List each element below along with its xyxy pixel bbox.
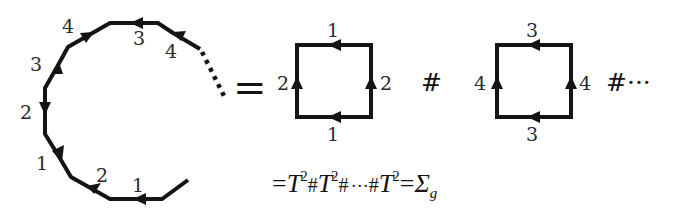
square-torus-1: 1 1 2 2: [277, 19, 392, 145]
square-right-label: 2: [380, 72, 392, 94]
polygon-edge-label: 3: [133, 27, 145, 49]
equals-sign: =: [233, 64, 267, 110]
trailing-connect-sum-ellipsis: #···: [606, 68, 651, 97]
formula-dots: ···: [351, 176, 369, 196]
genus-subscript: g: [430, 185, 438, 201]
arrow-icon: [291, 76, 303, 89]
square-top-label: 3: [526, 19, 538, 41]
surface-sigma-symbol: Σ: [414, 169, 429, 198]
connect-sum-symbol: #: [421, 68, 442, 97]
square-boundary: [497, 45, 571, 117]
arrow-icon: [39, 102, 51, 115]
square-bottom-label: 3: [526, 123, 538, 145]
polygon-edge-label: 2: [96, 164, 108, 186]
polygon-continuation-dots: [202, 52, 224, 96]
polygon-edge-label: 1: [132, 174, 144, 196]
polygon-edge-label: 1: [36, 152, 48, 174]
formula-equals: =: [400, 169, 415, 198]
arrow-icon: [527, 111, 540, 123]
connect-sum-symbol: #: [369, 174, 379, 196]
torus-symbol: T: [318, 169, 332, 198]
connect-sum-symbol: #: [339, 174, 349, 196]
torus-exponent: 2: [300, 168, 308, 184]
arrow-icon: [491, 76, 503, 89]
torus-exponent: 2: [331, 168, 339, 184]
square-left-label: 2: [277, 72, 289, 94]
arrow-icon: [365, 76, 377, 89]
formula-prefix-equals: =: [272, 169, 287, 198]
torus-exponent: 2: [392, 168, 400, 184]
arrow-icon: [328, 111, 341, 123]
polygon: 1 2 1 2 3 4 3 4: [20, 15, 224, 205]
square-torus-2: 3 3 4 4: [474, 19, 591, 145]
polygon-edge-label: 3: [30, 53, 42, 75]
square-top-label: 1: [327, 19, 339, 41]
formula: =T2#T2# ···#T2=Σg: [272, 168, 437, 202]
polygon-edge-label: 2: [20, 101, 32, 123]
polygon-edge-label: 4: [62, 15, 74, 37]
square-bottom-label: 1: [327, 123, 339, 145]
torus-symbol: T: [287, 169, 301, 198]
square-right-label: 4: [579, 72, 591, 94]
square-boundary: [297, 45, 371, 117]
polygon-edge-label: 4: [165, 40, 177, 62]
square-left-label: 4: [474, 72, 486, 94]
arrow-icon: [565, 76, 577, 89]
connect-sum-symbol: #: [308, 174, 318, 196]
